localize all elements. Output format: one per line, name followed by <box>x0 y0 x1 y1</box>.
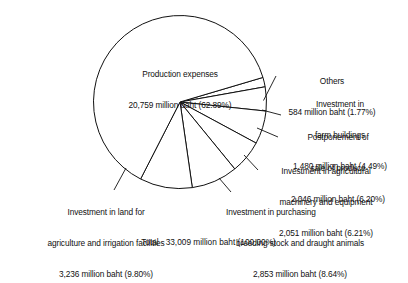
total-line: Total 33,009 million baht (100.00%) <box>0 227 408 258</box>
label-breeding-stock-line3: 2,853 million baht (8.64%) <box>204 269 396 279</box>
label-postponement-line1: Postponement of <box>272 132 404 142</box>
label-production-expenses: Production expenses 20,759 million baht … <box>104 48 256 131</box>
label-production-expenses-line2: 20,759 million baht (62.89%) <box>104 100 256 110</box>
total-label: Total <box>141 237 159 247</box>
label-breeding-stock-line1: Investment in purchasing <box>226 207 396 217</box>
label-production-expenses-line1: Production expenses <box>104 69 256 79</box>
label-land-line1: Investment in land for <box>14 207 198 217</box>
total-value: 33,009 million baht (100.00%) <box>166 237 276 247</box>
label-land-line3: 3,236 million baht (9.80%) <box>14 269 198 279</box>
label-machinery-line1: Investment in agricultural <box>246 166 406 176</box>
label-farm-buildings-line1: Investment in <box>276 99 404 109</box>
